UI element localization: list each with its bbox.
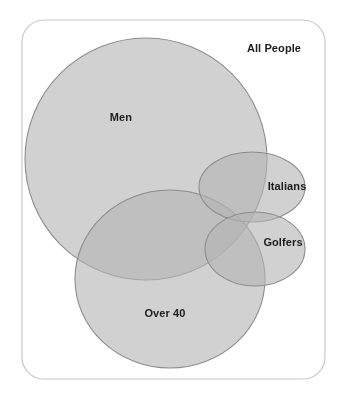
set-ellipse-italians[interactable] xyxy=(199,152,305,222)
venn-diagram-canvas xyxy=(0,0,344,402)
venn-diagram-figure: All People Men Italians Golfers Over 40 xyxy=(0,0,344,402)
set-ellipse-golfers[interactable] xyxy=(205,212,305,286)
